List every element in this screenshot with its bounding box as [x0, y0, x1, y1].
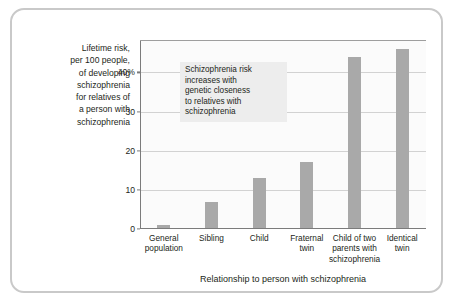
gridline: [140, 190, 426, 191]
figure-frame: Lifetime risk, per 100 people, of develo…: [10, 8, 443, 293]
plot-area: 010203040% GeneralpopulationSiblingChild…: [140, 40, 426, 229]
x-tick-label-line: schizophrenia: [325, 254, 385, 264]
annotation-line: increases with: [185, 76, 283, 87]
y-tick-label: 20: [125, 146, 135, 156]
bar: [253, 178, 266, 229]
y-axis-title-line: a person with: [26, 103, 130, 115]
annotation-line: genetic closeness: [185, 86, 283, 97]
bar: [205, 202, 218, 229]
x-tick-label: Identicaltwin: [372, 233, 432, 254]
bar: [396, 49, 409, 229]
y-tick-label: 30: [125, 107, 135, 117]
y-axis-title-line: per 100 people,: [26, 54, 130, 66]
annotation-line: to relatives with: [185, 97, 283, 108]
x-axis-title: Relationship to person with schizophreni…: [140, 274, 426, 284]
y-axis-title: Lifetime risk, per 100 people, of develo…: [26, 42, 130, 128]
x-axis-line: [140, 228, 426, 229]
y-axis-title-line: Lifetime risk,: [26, 42, 130, 54]
y-tick-label: 10: [125, 185, 135, 195]
y-axis-line: [140, 41, 141, 229]
bar: [348, 57, 361, 229]
annotation-line: Schizophrenia risk: [185, 65, 283, 76]
plot-inner: 010203040% GeneralpopulationSiblingChild…: [140, 41, 426, 229]
y-axis-title-line: for relatives of: [26, 91, 130, 103]
y-tick-label: 40%: [118, 67, 135, 77]
gridline: [140, 151, 426, 152]
annotation-callout: Schizophrenia risk increases with geneti…: [180, 62, 287, 122]
y-axis-title-line: schizophrenia: [26, 79, 130, 91]
y-axis-title-line: of developing: [26, 67, 130, 79]
bar: [300, 162, 313, 229]
x-tick-label-line: Identical: [372, 233, 432, 243]
x-tick-label-line: population: [134, 243, 194, 253]
x-tick-label-line: twin: [372, 243, 432, 253]
y-axis-title-line: schizophrenia: [26, 116, 130, 128]
annotation-line: schizophrenia: [185, 107, 283, 118]
